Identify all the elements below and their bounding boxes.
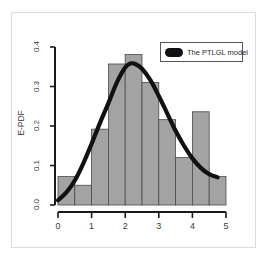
y-axis-tick-label: 0.0 (32, 196, 41, 214)
histogram-bar (75, 185, 92, 205)
histogram-bars (58, 55, 226, 206)
x-axis-tick-label: 5 (219, 221, 233, 231)
plot-area: 0.00.10.20.30.4 012345 E-PDF The PTLGL m… (0, 0, 267, 260)
x-axis-tick-label: 2 (118, 221, 132, 231)
legend: The PTLGL model (160, 42, 243, 62)
y-axis-title: E-PDF (16, 98, 26, 148)
y-axis (50, 47, 55, 205)
legend-swatch-ptlgl-model (165, 48, 183, 57)
x-axis (58, 212, 226, 218)
histogram-bar (125, 55, 142, 206)
x-axis-tick-label: 4 (185, 221, 199, 231)
y-axis-tick-label: 0.2 (32, 117, 41, 135)
x-axis-tick-label: 0 (51, 221, 65, 231)
histogram-bar (176, 158, 193, 205)
x-axis-tick-label: 1 (85, 221, 99, 231)
histogram-bar (142, 83, 159, 205)
x-axis-tick-label: 3 (152, 221, 166, 231)
y-axis-tick-label: 0.4 (32, 38, 41, 56)
legend-label-ptlgl-model: The PTLGL model (187, 47, 248, 58)
figure-container: 0.00.10.20.30.4 012345 E-PDF The PTLGL m… (0, 0, 267, 260)
y-axis-tick-label: 0.1 (32, 156, 41, 174)
histogram-bar (159, 120, 176, 205)
histogram-bar (209, 177, 226, 205)
y-axis-tick-label: 0.3 (32, 77, 41, 95)
